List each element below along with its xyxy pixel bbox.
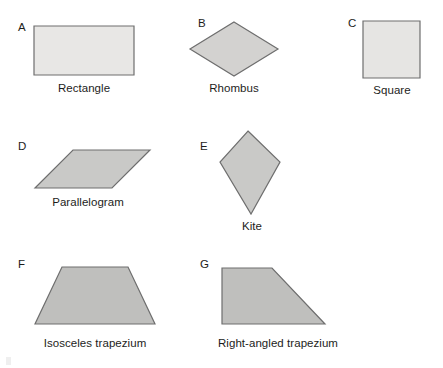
scan-edge-artifact [6,357,11,365]
right-angled-trapezium-polygon [222,268,325,324]
figure-caption-right-angled-trapezium: Right-angled trapezium [204,337,352,350]
quadrilaterals-diagram: A Rectangle B Rhombus C Square D Paralle… [0,0,443,368]
right-angled-trapezium-shape [0,0,443,368]
